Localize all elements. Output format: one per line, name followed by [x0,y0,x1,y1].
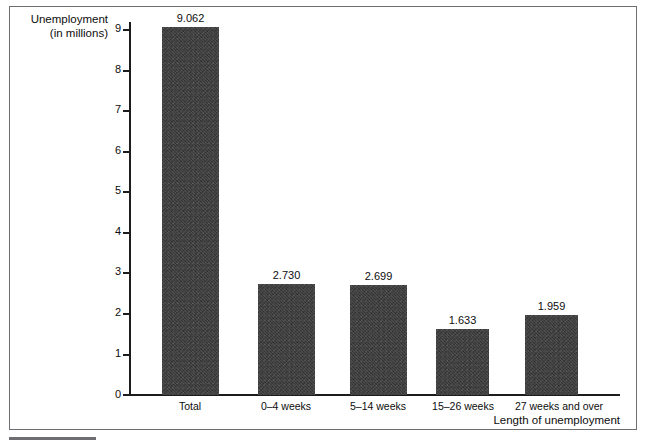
y-tick-9 [123,29,130,31]
bar-value-15-26-weeks: 1.633 [434,315,491,326]
y-tick-label-0: 0 [105,389,121,400]
bar-total[interactable] [162,27,219,395]
y-tick-label-6: 6 [105,145,121,156]
y-tick-0 [123,394,130,396]
y-tick-label-3: 3 [105,266,121,277]
y-tick-4 [123,232,130,234]
y-tick-label-9: 9 [105,23,121,34]
y-tick-label-8: 8 [105,64,121,75]
y-tick-8 [123,70,130,72]
bar-15-26-weeks[interactable] [436,329,489,395]
bar-27-weeks-and-over[interactable] [525,315,578,395]
x-category-label-5-14-weeks: 5–14 weeks [338,400,418,412]
y-tick-3 [123,272,130,274]
x-category-label-27-weeks-and-over: 27 weeks and over [498,400,620,412]
x-axis-title: Length of unemployment [380,413,620,427]
y-axis-title: Unemployment (in millions) [14,12,108,40]
chart-page: Unemployment (in millions) 0 1 2 3 4 5 6… [0,0,645,447]
x-category-label-0-4-weeks: 0–4 weeks [246,400,326,412]
y-tick-label-4: 4 [105,226,121,237]
y-tick-7 [123,110,130,112]
y-tick-5 [123,191,130,193]
y-tick-label-7: 7 [105,104,121,115]
bar-value-27-weeks-and-over: 1.959 [523,301,580,312]
x-category-label-total: Total [150,400,230,412]
y-tick-6 [123,151,130,153]
bar-0-4-weeks[interactable] [258,284,315,395]
y-tick-1 [123,354,130,356]
y-axis-line [129,22,131,396]
plot-area: Unemployment (in millions) 0 1 2 3 4 5 6… [0,0,645,447]
bar-value-5-14-weeks: 2.699 [350,271,407,282]
y-tick-label-5: 5 [105,185,121,196]
x-category-label-15-26-weeks: 15–26 weeks [422,400,504,412]
y-tick-2 [123,313,130,315]
bar-value-0-4-weeks: 2.730 [258,270,315,281]
bar-5-14-weeks[interactable] [350,285,407,395]
y-tick-label-2: 2 [105,307,121,318]
bar-value-total: 9.062 [162,13,219,24]
y-tick-label-1: 1 [105,348,121,359]
